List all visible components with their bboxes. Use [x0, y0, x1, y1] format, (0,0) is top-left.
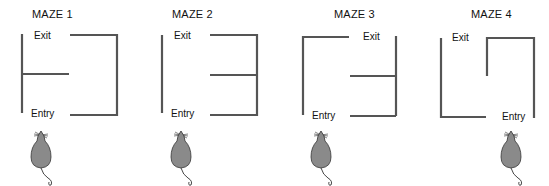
mouse-icon [501, 131, 522, 185]
maze-1: MAZE 1 Exit Entry [0, 0, 140, 186]
mouse-icon [311, 131, 332, 185]
maze-title: MAZE 2 [172, 8, 213, 20]
maze-2-walls [140, 0, 280, 186]
exit-label: Exit [452, 32, 469, 43]
maze-title: MAZE 3 [334, 8, 375, 20]
maze-3-walls [280, 0, 420, 186]
maze-4-walls [409, 0, 549, 186]
mouse-icon [171, 131, 192, 185]
exit-label: Exit [34, 30, 51, 41]
exit-label: Exit [174, 30, 191, 41]
maze-title: MAZE 4 [471, 8, 512, 20]
mouse-icon [31, 131, 52, 185]
maze-2: MAZE 2 Exit Entry [140, 0, 280, 186]
entry-label: Entry [171, 108, 194, 119]
entry-label: Entry [31, 108, 54, 119]
maze-1-walls [0, 0, 140, 186]
entry-label: Entry [502, 111, 525, 122]
maze-3: MAZE 3 Exit Entry [280, 0, 420, 186]
entry-label: Entry [312, 110, 335, 121]
exit-label: Exit [363, 31, 380, 42]
maze-title: MAZE 1 [32, 8, 73, 20]
maze-4: MAZE 4 Exit Entry [409, 0, 549, 186]
